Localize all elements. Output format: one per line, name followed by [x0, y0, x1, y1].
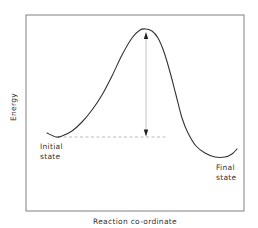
x-axis-label: Reaction co-ordinate: [93, 217, 177, 226]
initial-state-label-line2: state: [40, 152, 61, 161]
initial-state-label-line1: Initial: [40, 142, 63, 151]
y-axis-label: Energy: [9, 93, 18, 121]
arrowhead-up-icon: [144, 32, 148, 39]
final-state-label-line2: state: [216, 173, 237, 182]
plot-frame: [26, 15, 244, 211]
arrowhead-down-icon: [144, 130, 148, 137]
energy-curve: [47, 29, 237, 158]
energy-profile-diagram: Energy Reaction co-ordinate Initial stat…: [0, 0, 258, 228]
final-state-label-line1: Final: [216, 163, 235, 172]
